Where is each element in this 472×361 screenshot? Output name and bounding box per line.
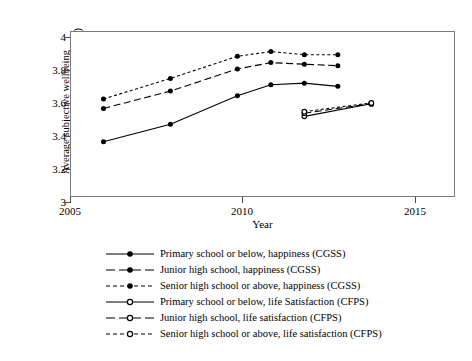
data-point xyxy=(335,63,340,68)
data-point xyxy=(335,52,340,57)
data-point xyxy=(235,66,240,71)
x-tick-label-2005: 2005 xyxy=(45,205,95,217)
y-tick-label-3.8: 3.8 xyxy=(40,65,66,76)
x-tick-label-2015: 2015 xyxy=(390,205,440,217)
legend-item-senior-happiness-cgss: Senior high school or above, happiness (… xyxy=(104,278,404,294)
data-point xyxy=(335,84,340,89)
legend-key-shortdash-filled-circle-icon xyxy=(104,278,156,294)
legend-label: Primary school or below, happiness (CGSS… xyxy=(156,248,345,260)
data-point xyxy=(268,60,273,65)
data-point xyxy=(268,82,273,87)
x-tick-mark-2015 xyxy=(415,197,416,203)
legend-key-longdash-filled-circle-icon xyxy=(104,262,156,278)
series-line xyxy=(103,52,337,99)
data-point xyxy=(168,89,173,94)
x-tick-mark-2010 xyxy=(242,197,243,203)
legend-key-solid-filled-circle-icon xyxy=(104,246,156,262)
legend-key-solid-open-circle-icon xyxy=(104,294,156,310)
legend-item-primary-happiness-cgss: Primary school or below, happiness (CGSS… xyxy=(104,246,404,262)
y-tick-label-4: 4 xyxy=(40,32,66,43)
series-line xyxy=(103,63,337,109)
data-point xyxy=(101,106,106,111)
data-point xyxy=(302,62,307,67)
legend-item-junior-happiness-cgss: Junior high school, happiness (CGSS) xyxy=(104,262,404,278)
y-tick-labels: 4 3.8 3.6 3.4 3.2 3 xyxy=(36,0,66,215)
data-point xyxy=(168,76,173,81)
y-tick-label-3.4: 3.4 xyxy=(40,131,66,142)
legend-label: Junior high school, happiness (CGSS) xyxy=(156,264,320,276)
series-line xyxy=(304,104,371,113)
data-series-layer xyxy=(70,31,455,197)
series-2 xyxy=(101,49,340,101)
data-point xyxy=(268,49,273,54)
legend-key-longdash-open-circle-icon xyxy=(104,310,156,326)
legend-item-junior-lifesat-cfps: Junior high school, life satisfaction (C… xyxy=(104,310,404,326)
data-point xyxy=(302,81,307,86)
y-tick-label-3.2: 3.2 xyxy=(40,164,66,175)
data-point xyxy=(101,139,106,144)
legend-label: Junior high school, life satisfaction (C… xyxy=(156,312,341,324)
series-4 xyxy=(302,101,374,115)
chart-legend: Primary school or below, happiness (CGSS… xyxy=(104,246,404,342)
legend-label: Primary school or below, life Satisfacti… xyxy=(156,296,368,308)
series-5 xyxy=(302,101,374,114)
data-point xyxy=(101,96,106,101)
series-3 xyxy=(302,101,374,118)
data-point xyxy=(235,54,240,59)
legend-label: Senior high school or above, happiness (… xyxy=(156,280,360,292)
legend-label: Senior high school or above, life satisf… xyxy=(156,328,382,340)
x-tick-label-2010: 2010 xyxy=(217,205,267,217)
data-point xyxy=(302,109,307,114)
data-point xyxy=(369,101,374,106)
legend-item-senior-lifesat-cfps: Senior high school or above, life satisf… xyxy=(104,326,404,342)
chart-figure: Average subjective wellbeing (scale of 1… xyxy=(0,0,472,361)
data-point xyxy=(168,122,173,127)
y-tick-label-3.6: 3.6 xyxy=(40,98,66,109)
x-axis-title: Year xyxy=(70,218,455,230)
legend-item-primary-lifesat-cfps: Primary school or below, life Satisfacti… xyxy=(104,294,404,310)
data-point xyxy=(235,93,240,98)
x-tick-mark-2005 xyxy=(70,197,71,203)
legend-key-shortdash-open-circle-icon xyxy=(104,326,156,342)
data-point xyxy=(302,52,307,57)
